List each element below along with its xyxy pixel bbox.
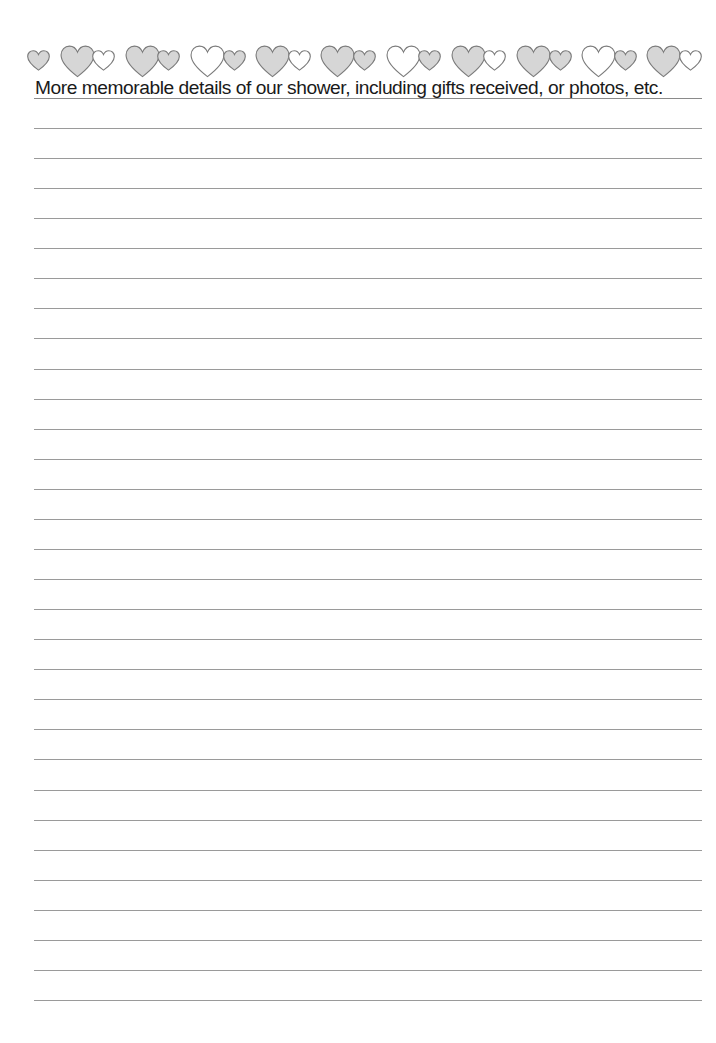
writing-line — [34, 1000, 702, 1001]
writing-line — [34, 639, 702, 640]
writing-line — [34, 158, 702, 159]
writing-line — [34, 429, 702, 430]
heart-icon — [483, 50, 506, 71]
heart-icon — [92, 50, 115, 71]
heart-icon — [646, 45, 681, 78]
writing-line — [34, 519, 702, 520]
heart-icon — [288, 50, 311, 71]
heart-icon — [223, 50, 246, 71]
writing-line — [34, 218, 702, 219]
heart-icon — [614, 50, 637, 71]
title-underline — [34, 98, 702, 99]
heart-icon — [679, 50, 702, 71]
writing-line — [34, 910, 702, 911]
journal-page: More memorable details of our shower, in… — [0, 0, 716, 1043]
writing-line — [34, 579, 702, 580]
writing-line — [34, 970, 702, 971]
heart-icon — [157, 50, 180, 71]
writing-line — [34, 128, 702, 129]
heart-icon — [549, 50, 572, 71]
page-title: More memorable details of our shower, in… — [35, 78, 663, 98]
heart-icon — [60, 45, 95, 78]
writing-line — [34, 880, 702, 881]
heart-icon — [418, 50, 441, 71]
writing-line — [34, 729, 702, 730]
heart-icon — [190, 45, 225, 78]
writing-line — [34, 459, 702, 460]
writing-line — [34, 669, 702, 670]
writing-line — [34, 549, 702, 550]
writing-line — [34, 188, 702, 189]
writing-line — [34, 248, 702, 249]
writing-line — [34, 369, 702, 370]
writing-line — [34, 940, 702, 941]
heart-icon — [353, 50, 376, 71]
writing-line — [34, 759, 702, 760]
writing-line — [34, 820, 702, 821]
heart-icon — [581, 45, 616, 78]
heart-icon — [451, 45, 486, 78]
writing-line — [34, 399, 702, 400]
heart-icon — [320, 45, 355, 78]
heart-icon — [27, 50, 50, 71]
heart-icon — [386, 45, 421, 78]
writing-line — [34, 609, 702, 610]
writing-line — [34, 790, 702, 791]
writing-line — [34, 278, 702, 279]
writing-line — [34, 338, 702, 339]
heart-icon — [516, 45, 551, 78]
heart-icon — [255, 45, 290, 78]
writing-line — [34, 850, 702, 851]
writing-line — [34, 699, 702, 700]
writing-line — [34, 308, 702, 309]
heart-icon — [125, 45, 160, 78]
writing-line — [34, 489, 702, 490]
